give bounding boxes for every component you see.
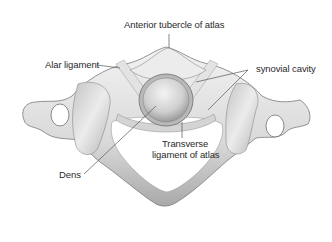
label-synovial-cavity: synovial cavity [256, 64, 316, 74]
label-anterior-tubercle: Anterior tubercle of atlas [124, 20, 224, 30]
dens [143, 78, 189, 122]
label-dens: Dens [59, 170, 81, 180]
right-transverse-foramen [266, 115, 284, 137]
atlas-illustration [0, 0, 332, 242]
label-transverse-ligament-line2: ligament of atlas [152, 150, 219, 160]
label-alar-ligament: Alar ligament [45, 60, 99, 70]
atlas-diagram: Anterior tubercle of atlas Alar ligament… [0, 0, 332, 242]
label-transverse-ligament-line1: Transverse [162, 139, 208, 149]
left-transverse-foramen [51, 104, 69, 126]
